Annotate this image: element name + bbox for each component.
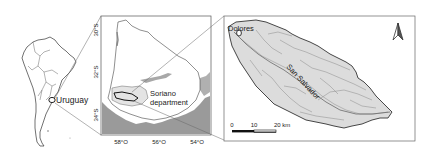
lon-tick-56o: 56°O	[152, 139, 166, 145]
dolores-label: Dolores	[228, 24, 254, 33]
scale-tick-10: 10	[251, 122, 258, 128]
scale-tick-20km: 20 km	[274, 122, 290, 128]
soriano-label: Soriano	[150, 89, 176, 98]
south-america-panel: Uruguay	[22, 37, 89, 146]
uruguay-marker	[49, 97, 55, 102]
uruguay-panel: Soriano department 30°S 32°S 34°S 58°O 5…	[93, 16, 211, 145]
lat-tick-32s: 32°S	[93, 65, 99, 78]
lat-tick-30s: 30°S	[93, 23, 99, 36]
lon-tick-58o: 58°O	[114, 139, 128, 145]
south-america-outline	[22, 37, 76, 146]
study-area-map-figure: Uruguay Soriano department 30°S 32°S 34°…	[0, 0, 425, 157]
department-label: department	[150, 98, 189, 107]
basin-panel: Dolores San Salvador 0 10 20 km	[224, 16, 415, 141]
lon-tick-54o: 54°O	[190, 139, 204, 145]
lat-tick-34s: 34°S	[93, 108, 99, 121]
uruguay-label: Uruguay	[56, 95, 89, 105]
